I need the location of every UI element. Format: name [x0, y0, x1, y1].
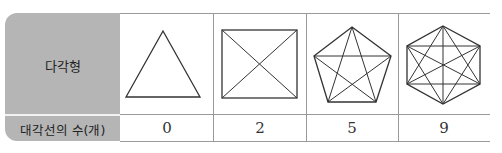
- pentagon-icon: [314, 27, 391, 102]
- diagonal-count-pentagon: 5: [306, 119, 398, 137]
- square-icon: [222, 30, 297, 98]
- diagonal-count-square: 2: [214, 119, 306, 137]
- diagonal-count-triangle: 0: [121, 119, 213, 137]
- hexagon-icon: [407, 26, 480, 104]
- triangle-icon: [126, 31, 200, 97]
- diagonal-count-hexagon: 9: [398, 119, 490, 137]
